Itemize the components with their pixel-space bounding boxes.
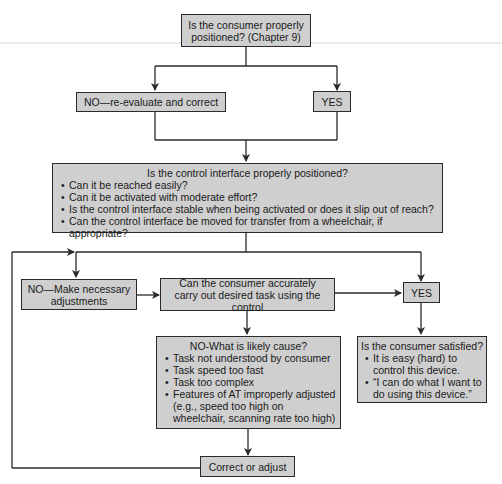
node-consumer-satisfied: Is the consumer satisfied? It is easy (h… [357,336,487,403]
node-correct-adjust: Correct or adjust [200,456,295,477]
node-consumer-positioned: Is the consumer properly positioned? (Ch… [181,14,311,47]
node-title: Is the control interface properly positi… [57,167,438,179]
node-yes-positioned: YES [313,91,351,112]
node-likely-cause: NO-What is likely cause? Task not unders… [156,336,341,429]
question-item: Can the control interface be moved for t… [61,215,438,239]
cause-item: Task not understood by consumer [165,352,336,364]
node-carry-out-task: Can the consumer accurately carry out de… [160,278,335,311]
question-item: Can it be activated with moderate effort… [61,191,438,203]
question-list: Can it be reached easily? Can it be acti… [57,179,438,239]
satisfaction-list: It is easy (hard) to control this device… [361,352,483,400]
cause-item: Task too complex [165,376,336,388]
question-item: Is the control interface stable when bei… [61,203,438,215]
node-text: YES [411,287,432,299]
node-yes-task: YES [403,282,440,303]
node-text: YES [321,96,342,108]
node-text: NO—re-evaluate and correct [84,96,218,108]
node-make-adjustments: NO—Make necessary adjustments [21,279,137,310]
satisfaction-item: It is easy (hard) to control this device… [365,352,483,376]
node-text: Correct or adjust [209,461,287,473]
node-reevaluate: NO—re-evaluate and correct [76,92,226,112]
cause-item: Features of AT improperly adjusted (e.g.… [165,388,336,424]
node-text: NO—Make necessary adjustments [22,283,136,307]
satisfaction-item: “I can do what I want to do using this d… [365,376,483,400]
cause-list: Task not understood by consumer Task spe… [161,352,336,424]
node-control-interface: Is the control interface properly positi… [52,163,443,233]
cause-item: Task speed too fast [165,364,336,376]
node-text: Is the consumer properly positioned? (Ch… [182,19,310,43]
node-title: NO-What is likely cause? [161,340,336,352]
question-item: Can it be reached easily? [61,179,438,191]
node-title: Is the consumer satisfied? [361,340,483,352]
node-text: Can the consumer accurately carry out de… [161,277,334,313]
